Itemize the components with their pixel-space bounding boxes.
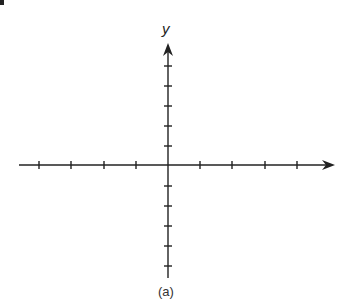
corner-mark — [0, 0, 4, 5]
y-axis — [163, 43, 173, 278]
x-axis — [19, 160, 335, 170]
y-axis-label: y — [162, 20, 170, 37]
figure-caption: (a) — [158, 284, 174, 299]
